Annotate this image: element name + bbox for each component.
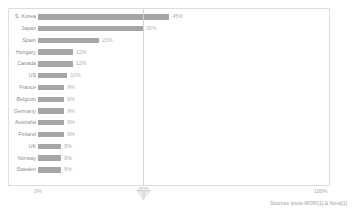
bar-category-label: Sweden xyxy=(8,166,36,173)
bar-track: 8% xyxy=(38,167,330,172)
bar-row: France9% xyxy=(8,82,330,94)
bar-value-label: 45% xyxy=(172,13,182,20)
bar-row: S. Korea45% xyxy=(8,11,330,23)
bar-track: 12% xyxy=(38,49,330,54)
bar-row: Sweden8% xyxy=(8,164,330,176)
bar-value-label: 36% xyxy=(146,25,156,32)
bar-segment xyxy=(38,108,64,113)
axis-max-label: 100% xyxy=(314,188,327,195)
source-note: Sources Ipsos-MORI[1] & Nova[1] xyxy=(270,200,347,207)
bar-track: 45% xyxy=(38,14,330,19)
bar-category-label: Germany xyxy=(8,108,36,115)
bar-segment xyxy=(38,132,64,137)
bar-track: 9% xyxy=(38,132,330,137)
bar-value-label: 9% xyxy=(67,119,75,126)
bar-segment xyxy=(38,38,99,43)
bar-category-label: Belgium xyxy=(8,96,36,103)
bar-value-label: 9% xyxy=(67,108,75,115)
bar-row: Australia9% xyxy=(8,117,330,129)
bar-segment xyxy=(38,26,143,31)
bar-track: 12% xyxy=(38,61,330,66)
bar-track: 8% xyxy=(38,155,330,160)
bar-segment xyxy=(38,120,64,125)
bar-track: 9% xyxy=(38,120,330,125)
bar-track: 9% xyxy=(38,97,330,102)
bar-segment xyxy=(38,97,64,102)
diamond-marker-icon xyxy=(135,186,152,201)
bar-segment xyxy=(38,167,61,172)
bar-segment xyxy=(38,144,61,149)
bar-value-label: 9% xyxy=(67,84,75,91)
bar-track: 10% xyxy=(38,73,330,78)
reference-line xyxy=(143,9,144,186)
bar-track: 36% xyxy=(38,26,330,31)
bar-segment xyxy=(38,61,73,66)
bar-track: 9% xyxy=(38,85,330,90)
bar-category-label: France xyxy=(8,84,36,91)
bar-rows-container: S. Korea45%Japan36%Spain21%Hungary12%Can… xyxy=(8,11,330,183)
bar-row: Japan36% xyxy=(8,23,330,35)
bar-row: Hungary12% xyxy=(8,46,330,58)
bar-category-label: UK xyxy=(8,143,36,150)
bar-track: 9% xyxy=(38,108,330,113)
bar-row: Belgium9% xyxy=(8,93,330,105)
bar-category-label: Spain xyxy=(8,37,36,44)
bar-track: 8% xyxy=(38,144,330,149)
bar-value-label: 21% xyxy=(102,37,112,44)
bar-value-label: 10% xyxy=(70,72,80,79)
bar-category-label: Finland xyxy=(8,131,36,138)
bar-chart: S. Korea45%Japan36%Spain21%Hungary12%Can… xyxy=(0,0,353,216)
bar-row: Spain21% xyxy=(8,35,330,47)
bar-segment xyxy=(38,85,64,90)
bar-row: Finland9% xyxy=(8,129,330,141)
bar-category-label: Japan xyxy=(8,25,36,32)
bar-row: Norway8% xyxy=(8,152,330,164)
bar-category-label: Norway xyxy=(8,155,36,162)
bar-segment xyxy=(38,73,67,78)
bar-segment xyxy=(38,155,61,160)
bar-value-label: 12% xyxy=(76,49,86,56)
bar-row: Germany9% xyxy=(8,105,330,117)
bar-value-label: 9% xyxy=(67,96,75,103)
bar-value-label: 8% xyxy=(64,166,72,173)
bar-value-label: 9% xyxy=(67,131,75,138)
bar-value-label: 8% xyxy=(64,155,72,162)
bar-category-label: S. Korea xyxy=(8,13,36,20)
bar-value-label: 8% xyxy=(64,143,72,150)
bar-category-label: Australia xyxy=(8,119,36,126)
bar-row: US10% xyxy=(8,70,330,82)
axis-min-label: 0% xyxy=(34,188,42,195)
bar-segment xyxy=(38,49,73,54)
bar-row: Canada12% xyxy=(8,58,330,70)
bar-category-label: US xyxy=(8,72,36,79)
bar-row: UK8% xyxy=(8,140,330,152)
bar-track: 21% xyxy=(38,38,330,43)
bar-category-label: Canada xyxy=(8,60,36,67)
bar-category-label: Hungary xyxy=(8,49,36,56)
bar-value-label: 12% xyxy=(76,60,86,67)
bar-segment xyxy=(38,14,169,19)
